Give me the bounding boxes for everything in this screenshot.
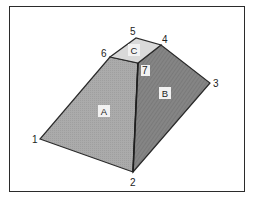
vertex-label-5: 5 [130, 26, 136, 37]
frustum-diagram: A B C 1 2 3 4 5 6 7 [0, 0, 258, 205]
svg-text:A: A [101, 106, 108, 117]
vertex-label-6: 6 [101, 48, 107, 59]
svg-text:C: C [131, 45, 138, 56]
face-label-a: A [98, 105, 110, 117]
face-a [40, 57, 138, 172]
face-label-b: B [159, 87, 171, 99]
vertex-label-3: 3 [213, 78, 219, 89]
svg-text:7: 7 [142, 65, 148, 76]
vertex-label-2: 2 [130, 177, 136, 188]
vertex-label-4: 4 [162, 34, 168, 45]
svg-text:B: B [162, 88, 168, 99]
vertex-label-1: 1 [32, 134, 38, 145]
vertex-label-7: 7 [141, 65, 150, 76]
face-label-c: C [128, 44, 140, 56]
